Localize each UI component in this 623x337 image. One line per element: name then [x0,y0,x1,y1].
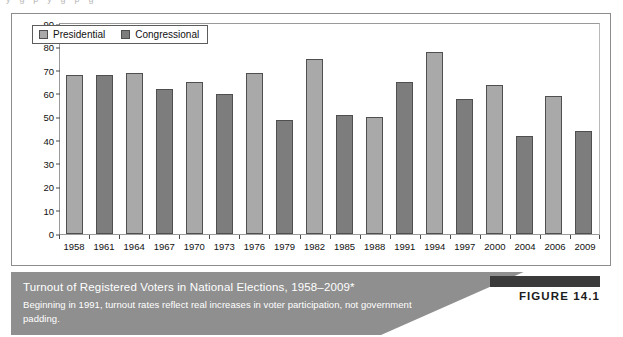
bar-slot [180,24,210,234]
caption-subtitle: Beginning in 1991, turnout rates reflect… [23,298,423,325]
y-axis-tick: 10 [43,205,60,216]
x-axis-label-1964: 1964 [124,241,145,252]
bar-slot [479,24,509,234]
bar-1994[interactable] [426,52,443,234]
y-axis-tick: 50 [43,112,60,123]
x-axis-label-1961: 1961 [94,241,115,252]
bar-1982[interactable] [306,59,323,234]
bar-slot [509,24,539,234]
tick-mark [119,235,120,239]
tick-mark [59,235,60,239]
bar-1985[interactable] [336,115,353,234]
legend-swatch-presidential-icon [39,30,48,39]
bar-1991[interactable] [396,82,413,234]
bar-1997[interactable] [456,99,473,234]
legend-item-presidential: Presidential [39,29,105,40]
bar-1988[interactable] [366,117,383,234]
tick-mark [149,235,150,239]
tick-mark [450,235,451,239]
x-axis-label-1967: 1967 [154,241,175,252]
bar-slot [90,24,120,234]
bar-1961[interactable] [96,75,113,234]
tick-mark [420,235,421,239]
bar-1979[interactable] [276,120,293,234]
tick-mark [510,235,511,239]
bar-slot [210,24,240,234]
y-axis-tick: 20 [43,182,60,193]
tick-mark [239,235,240,239]
figure-tag-bar [490,276,600,287]
tick-mark [269,235,270,239]
plot-area: 0102030405060708090 [59,23,600,235]
bar-2009[interactable] [575,131,592,234]
chart-frame: Percentage 0102030405060708090 195819611… [11,13,611,266]
x-axis-label-1991: 1991 [394,241,415,252]
bar-slot [300,24,330,234]
y-axis-tick: 70 [43,65,60,76]
bar-slot [419,24,449,234]
bar-slot [270,24,300,234]
bar-slot [60,24,90,234]
y-axis-tick: 40 [43,135,60,146]
tick-mark [330,235,331,239]
tick-mark [300,235,301,239]
bar-slot [569,24,599,234]
bar-slot [539,24,569,234]
x-axis-label-1988: 1988 [364,241,385,252]
bar-2000[interactable] [486,85,503,234]
bar-2006[interactable] [545,96,562,234]
caption-title: Turnout of Registered Voters in National… [23,280,423,295]
bar-1964[interactable] [126,73,143,234]
x-axis-label-1976: 1976 [244,241,265,252]
x-axis-label-1973: 1973 [214,241,235,252]
legend-label-congressional: Congressional [135,29,199,40]
x-axis-label-1985: 1985 [334,241,355,252]
legend-item-congressional: Congressional [121,29,199,40]
x-axis-label-1970: 1970 [184,241,205,252]
x-axis-label-2000: 2000 [484,241,505,252]
x-axis-label-2006: 2006 [544,241,565,252]
legend-swatch-congressional-icon [121,30,130,39]
x-axis-label-1994: 1994 [424,241,445,252]
tick-mark [179,235,180,239]
figure-container: y g p y g p g Percentage 010203040506070… [0,0,623,337]
caption-text-block: Turnout of Registered Voters in National… [23,280,423,325]
chart-legend: Presidential Congressional [32,25,208,44]
x-axis-label-2009: 2009 [575,241,596,252]
bar-slot [359,24,389,234]
bar-2004[interactable] [516,136,533,234]
y-axis-tick: 60 [43,88,60,99]
x-axis-label-2004: 2004 [514,241,535,252]
tick-mark [390,235,391,239]
legend-label-presidential: Presidential [53,29,105,40]
tick-mark [599,235,600,239]
bar-slot [449,24,479,234]
tick-mark [480,235,481,239]
bar-1970[interactable] [186,82,203,234]
bar-1958[interactable] [66,75,83,234]
scan-artifact: y g p y g p g [0,0,623,6]
bar-slot [120,24,150,234]
tick-mark [360,235,361,239]
x-axis-label-1982: 1982 [304,241,325,252]
tick-mark [209,235,210,239]
tick-mark [540,235,541,239]
bar-slot [389,24,419,234]
figure-tag-label: FIGURE 14.1 [519,290,600,302]
bar-slot [329,24,359,234]
tick-mark [89,235,90,239]
x-axis: 1958196119641967197019731976197919821985… [59,235,600,265]
x-axis-label-1997: 1997 [454,241,475,252]
y-axis-tick: 30 [43,158,60,169]
bar-group [60,24,599,234]
bar-1973[interactable] [216,94,233,234]
bar-1976[interactable] [246,73,263,234]
caption-band: Turnout of Registered Voters in National… [11,272,611,335]
bar-1967[interactable] [156,89,173,234]
tick-mark [570,235,571,239]
x-axis-label-1958: 1958 [63,241,84,252]
bar-slot [240,24,270,234]
bar-slot [150,24,180,234]
x-axis-label-1979: 1979 [274,241,295,252]
